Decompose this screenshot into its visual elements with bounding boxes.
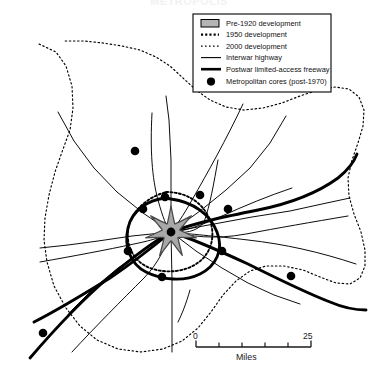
freeway-southwest-northeast	[34, 232, 366, 322]
legend-label-1950: 1950 development	[226, 30, 287, 39]
legend-dot-metropolitan-cores	[207, 78, 215, 86]
figure-root: METROPOLIS	[0, 0, 378, 377]
interwar-highway-connectors	[40, 104, 356, 352]
metropolitan-core-dot	[287, 272, 296, 281]
connector-s-tail	[178, 290, 190, 322]
metropolitan-core-dot	[218, 247, 227, 256]
metropolitan-core-dot	[158, 273, 167, 282]
highway-northwest	[58, 112, 171, 232]
legend-swatch-pre1920	[201, 20, 219, 28]
legend-label-2000: 2000 development	[226, 42, 287, 51]
highway-south	[171, 232, 172, 352]
legend: Pre-1920 development 1950 development 20…	[193, 14, 331, 92]
connector-e-sweep	[171, 216, 348, 237]
scale-bar: 0 25 Miles	[193, 331, 313, 362]
metropolitan-core-dot	[131, 147, 140, 156]
legend-label-interwar-highway: Interwar highway	[226, 53, 282, 62]
scale-max-label: 25	[303, 331, 313, 341]
metropolitan-core-dot	[139, 205, 148, 214]
metropolitan-core-dot	[39, 329, 48, 338]
scale-unit-label: Miles	[236, 352, 257, 362]
scale-min-label: 0	[193, 331, 198, 341]
metropolitan-core-dot	[167, 228, 176, 237]
connector-north-loop	[151, 113, 171, 232]
postwar-freeway-network	[30, 154, 366, 358]
metropolitan-core-dot	[224, 205, 233, 214]
metropolitan-core-dot	[161, 193, 170, 202]
legend-label-pre1920: Pre-1920 development	[226, 19, 301, 28]
scale-bar-ticks	[219, 343, 288, 348]
metropolitan-core-dot	[124, 247, 133, 256]
freeway-northwest-southeast	[30, 154, 357, 358]
metropolitan-core-dot	[196, 191, 205, 200]
metropolis-map: Pre-1920 development 1950 development 20…	[0, 0, 378, 377]
legend-label-postwar-freeway: Postwar limited-access freeway	[226, 65, 330, 74]
legend-label-metropolitan-cores: Metropolitan cores (post-1970)	[226, 77, 327, 86]
